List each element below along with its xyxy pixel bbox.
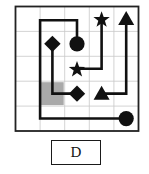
- puzzle-grid: [0, 0, 149, 135]
- option-label: D: [71, 144, 82, 161]
- option-label-box[interactable]: D: [51, 140, 101, 165]
- triangle-icon: [118, 11, 134, 25]
- star-icon: [69, 61, 85, 77]
- circle-icon: [69, 36, 84, 51]
- circle-icon: [119, 111, 134, 126]
- diamond-icon: [44, 36, 60, 52]
- diamond-icon: [69, 85, 85, 101]
